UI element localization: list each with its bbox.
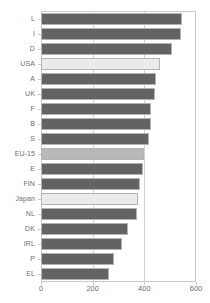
y-label-nl: NL: [26, 210, 35, 217]
y-label-i: I: [33, 30, 35, 37]
bar-row: [41, 13, 196, 25]
bar-row: [41, 148, 196, 160]
bar-usa[interactable]: [41, 58, 160, 70]
y-label-b: B: [30, 120, 35, 127]
bar-row: [41, 253, 196, 265]
bar-row: [41, 58, 196, 70]
bar-row: [41, 268, 196, 280]
bar-dk[interactable]: [41, 223, 128, 235]
y-label-p: P: [30, 255, 35, 262]
bar-row: [41, 133, 196, 145]
y-axis-labels: LIDUSAAUKFBSEU-15EFINJapanNLDKIRLPEL: [0, 11, 38, 282]
x-label-600: 600: [190, 285, 203, 293]
bar-row: [41, 73, 196, 85]
bar-i[interactable]: [41, 28, 181, 40]
bar-row: [41, 118, 196, 130]
bar-japan[interactable]: [41, 193, 138, 205]
bar-row: [41, 103, 196, 115]
bar-p[interactable]: [41, 253, 114, 265]
bar-row: [41, 223, 196, 235]
bar-b[interactable]: [41, 118, 151, 130]
y-label-usa: USA: [20, 60, 35, 67]
bar-irl[interactable]: [41, 238, 122, 250]
y-label-eu-15: EU-15: [15, 150, 35, 157]
bar-row: [41, 208, 196, 220]
y-label-japan: Japan: [15, 195, 35, 202]
bar-f[interactable]: [41, 103, 151, 115]
bar-s[interactable]: [41, 133, 149, 145]
x-label-0: 0: [39, 285, 43, 293]
bar-row: [41, 193, 196, 205]
bar-row: [41, 238, 196, 250]
y-label-e: E: [30, 165, 35, 172]
y-label-d: D: [30, 45, 35, 52]
bar-row: [41, 88, 196, 100]
y-label-l: L: [31, 15, 35, 22]
bar-fin[interactable]: [41, 178, 140, 190]
bar-a[interactable]: [41, 73, 156, 85]
y-label-dk: DK: [25, 225, 35, 232]
bar-chart: LIDUSAAUKFBSEU-15EFINJapanNLDKIRLPEL 020…: [0, 0, 210, 303]
bar-d[interactable]: [41, 43, 172, 55]
x-label-200: 200: [86, 285, 99, 293]
bar-el[interactable]: [41, 268, 109, 280]
bar-row: [41, 178, 196, 190]
bar-eu-15[interactable]: [41, 148, 144, 160]
bar-row: [41, 28, 196, 40]
bar-row: [41, 43, 196, 55]
y-label-a: A: [30, 75, 35, 82]
bars-container: [41, 11, 196, 282]
x-axis-labels: 0200400600: [0, 285, 210, 299]
x-label-400: 400: [138, 285, 151, 293]
y-label-irl: IRL: [24, 240, 35, 247]
y-label-f: F: [31, 105, 35, 112]
y-label-fin: FIN: [23, 180, 35, 187]
bar-l[interactable]: [41, 13, 182, 25]
bar-uk[interactable]: [41, 88, 155, 100]
y-label-s: S: [30, 135, 35, 142]
y-label-uk: UK: [25, 90, 35, 97]
y-label-el: EL: [26, 270, 35, 277]
bar-e[interactable]: [41, 163, 143, 175]
bar-row: [41, 163, 196, 175]
bar-nl[interactable]: [41, 208, 137, 220]
